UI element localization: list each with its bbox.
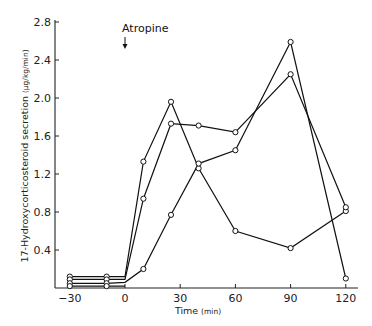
x-tick-label: −30 xyxy=(58,292,81,305)
y-tick-label: 1.2 xyxy=(34,168,52,181)
y-tick-label: 0.8 xyxy=(34,206,52,219)
x-tick-label: 90 xyxy=(284,292,298,305)
line-chart: 0.40.81.21.62.02.42.8−300306090120 Atrop… xyxy=(0,0,372,326)
x-axis-title: Time (min) xyxy=(174,305,221,316)
data-point-marker xyxy=(67,284,72,289)
y-tick-label: 2.0 xyxy=(34,92,52,105)
data-point-marker xyxy=(168,212,173,217)
data-point-marker xyxy=(288,246,293,251)
data-point-marker xyxy=(343,276,348,281)
x-tick-label: 0 xyxy=(122,292,129,305)
data-point-marker xyxy=(233,148,238,153)
series-line xyxy=(70,102,346,277)
data-point-marker xyxy=(104,284,109,289)
data-point-marker xyxy=(233,130,238,135)
data-point-marker xyxy=(288,39,293,44)
series-line xyxy=(70,74,346,279)
x-tick-label: 60 xyxy=(228,292,242,305)
atropine-arrow-icon xyxy=(123,37,128,49)
y-axis-title: 17-Hydroxycorticosteroid secretion (µg/k… xyxy=(19,49,30,262)
series-line xyxy=(70,42,346,283)
atropine-annotation: Atropine xyxy=(122,22,169,35)
data-point-marker xyxy=(141,159,146,164)
y-tick-label: 2.4 xyxy=(34,54,52,67)
data-point-marker xyxy=(168,99,173,104)
data-point-marker xyxy=(168,121,173,126)
data-point-marker xyxy=(196,123,201,128)
data-point-marker xyxy=(141,196,146,201)
y-tick-label: 2.8 xyxy=(34,16,52,29)
data-point-marker xyxy=(141,266,146,271)
data-series xyxy=(67,39,348,288)
data-point-marker xyxy=(233,228,238,233)
y-tick-label: 0.4 xyxy=(34,244,52,257)
y-tick-label: 1.6 xyxy=(34,130,52,143)
data-point-marker xyxy=(343,205,348,210)
x-tick-label: 120 xyxy=(335,292,356,305)
data-point-marker xyxy=(196,161,201,166)
data-point-marker xyxy=(288,72,293,77)
x-tick-label: 30 xyxy=(173,292,187,305)
